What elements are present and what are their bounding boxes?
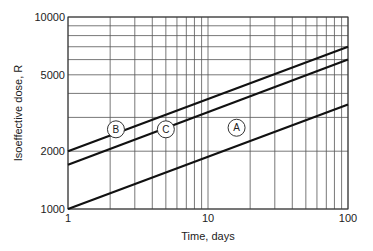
- label-c: C: [157, 121, 174, 138]
- label-a: A: [228, 119, 245, 136]
- y-tick-label: 10000: [34, 11, 65, 23]
- svg-text:A: A: [233, 122, 240, 133]
- y-axis-label: Isoeffective dose, R: [12, 65, 24, 161]
- x-tick-label: 100: [339, 212, 357, 224]
- svg-text:C: C: [162, 124, 169, 135]
- y-tick-label: 5000: [41, 69, 65, 81]
- y-tick-label: 2000: [41, 145, 65, 157]
- label-b: B: [107, 121, 124, 138]
- x-axis-label: Time, days: [181, 230, 235, 242]
- x-tick-label: 10: [202, 212, 214, 224]
- svg-text:B: B: [113, 124, 120, 135]
- x-tick-label: 1: [65, 212, 71, 224]
- chart: ABC 10002000500010000110100 Time, days I…: [0, 0, 373, 251]
- y-tick-label: 1000: [41, 203, 65, 215]
